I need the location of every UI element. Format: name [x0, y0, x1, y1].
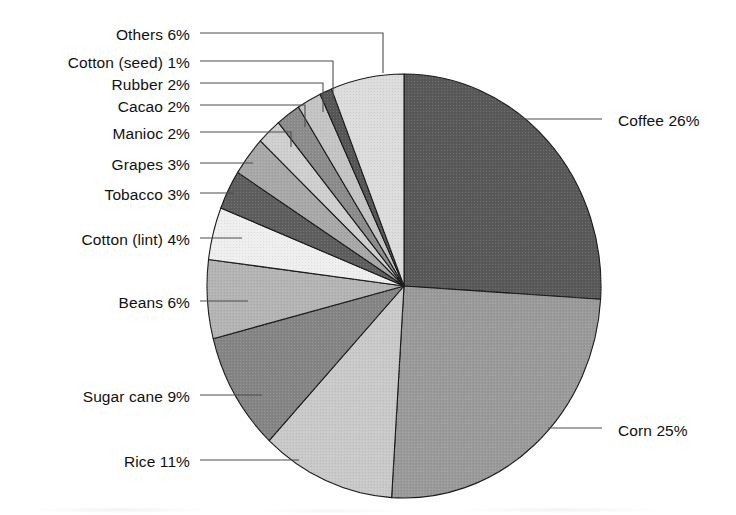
- pie-slice-label: Beans 6%: [0, 295, 190, 311]
- pie-slice-texture: [392, 286, 601, 498]
- leader-line: [200, 61, 333, 100]
- pie-chart-figure: Coffee 26%Corn 25%Rice 11%Sugar cane 9%B…: [0, 0, 736, 515]
- pie-slice-label: Tobacco 3%: [0, 187, 190, 203]
- pie-slice-label: Cotton (seed) 1%: [0, 55, 190, 71]
- pie-slice-label: Coffee 26%: [618, 113, 700, 129]
- pie-slice-label: Rubber 2%: [0, 77, 190, 93]
- leader-line: [200, 33, 383, 73]
- pie-halftone-texture: [207, 74, 601, 498]
- pie-slice-label: Cacao 2%: [0, 99, 190, 115]
- pie-slice-label: Cotton (lint) 4%: [0, 232, 190, 248]
- pie-slice-label: Sugar cane 9%: [0, 389, 190, 405]
- pie-slice-label: Rice 11%: [0, 454, 190, 470]
- pie-slice-label: Corn 25%: [618, 423, 688, 439]
- pie-slice-label: Grapes 3%: [0, 157, 190, 173]
- pie-slice-label: Manioc 2%: [0, 126, 190, 142]
- pie-slice-label: Others 6%: [0, 27, 190, 43]
- pie-slice-texture: [404, 74, 601, 299]
